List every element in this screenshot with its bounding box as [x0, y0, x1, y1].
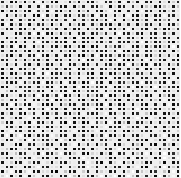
heatmap-cell [176, 174, 181, 178]
heatmap-grid [0, 0, 180, 178]
heatmap-figure [0, 0, 180, 178]
